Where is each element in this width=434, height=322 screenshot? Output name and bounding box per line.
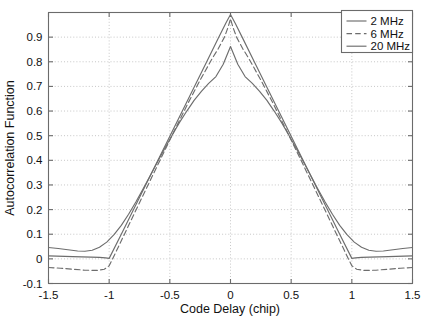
x-tick-labels: -1.5-1-0.500.511.5 [39, 289, 421, 301]
y-tick-label: 0.4 [27, 154, 44, 166]
legend-label-20-mhz: 20 MHz [371, 40, 411, 52]
y-tick-label: 0.1 [27, 228, 43, 240]
y-axis-title: Autocorrelation Function [3, 80, 17, 216]
x-tick-label: -0.5 [160, 289, 180, 301]
x-tick-label: -1 [104, 289, 114, 301]
x-tick-label: 1.5 [405, 289, 421, 301]
legend: 2 MHz6 MHz20 MHz [342, 11, 413, 53]
x-tick-label: 1 [349, 289, 355, 301]
y-tick-label: 0.9 [27, 31, 43, 43]
legend-label-6-mhz: 6 MHz [371, 28, 404, 40]
x-axis-title: Code Delay (chip) [180, 302, 280, 316]
x-tick-label: -1.5 [39, 289, 59, 301]
y-tick-label: 0.7 [27, 80, 43, 92]
y-tick-label: 0.2 [27, 204, 43, 216]
y-tick-label: 0 [36, 253, 42, 265]
x-tick-label: 0.5 [283, 289, 299, 301]
y-tick-labels: -0.100.10.20.30.40.50.60.70.80.9 [23, 31, 43, 289]
autocorrelation-chart: -1.5-1-0.500.511.5 -0.100.10.20.30.40.50… [0, 0, 434, 322]
x-tick-label: 0 [227, 289, 233, 301]
y-tick-label: -0.1 [23, 278, 43, 290]
y-tick-label: 0.3 [27, 179, 43, 191]
y-tick-label: 0.6 [27, 105, 43, 117]
chart-figure: -1.5-1-0.500.511.5 -0.100.10.20.30.40.50… [0, 0, 434, 322]
grid-lines [49, 13, 413, 284]
y-tick-label: 0.5 [27, 130, 43, 142]
y-tick-label: 0.8 [27, 56, 43, 68]
legend-label-2-mhz: 2 MHz [371, 15, 404, 27]
